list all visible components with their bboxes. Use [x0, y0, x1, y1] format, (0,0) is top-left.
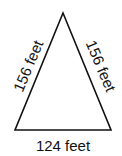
- triangle-diagram: 156 feet 156 feet 124 feet: [0, 0, 122, 156]
- base-label: 124 feet: [36, 137, 91, 154]
